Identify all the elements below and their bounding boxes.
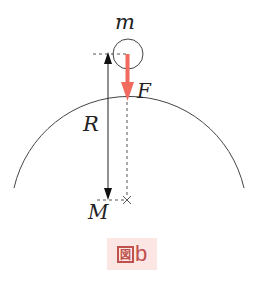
figure-icon: 図	[117, 246, 134, 263]
force-label: F	[137, 81, 151, 101]
center-cross-icon	[123, 196, 131, 204]
force-arrowhead-icon	[121, 82, 134, 101]
force-arrow-shaft	[126, 54, 130, 84]
figure-caption: 図 b	[107, 238, 157, 270]
planet-surface-arc	[14, 96, 244, 188]
small-mass-label: m	[115, 12, 135, 33]
radius-label: R	[83, 114, 99, 135]
figure-glyph: 図	[119, 246, 132, 262]
figure-caption-text: b	[135, 243, 147, 265]
radius-arrowhead-down-icon	[104, 188, 112, 200]
large-mass-label: M	[88, 202, 108, 222]
